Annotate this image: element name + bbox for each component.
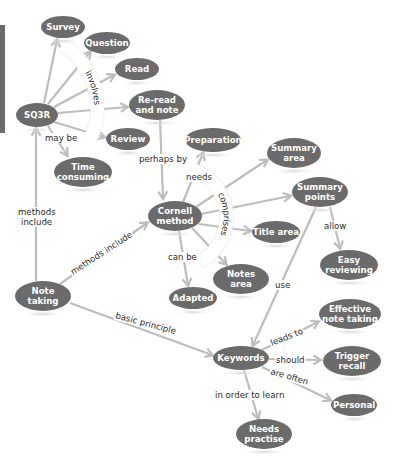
node-label: note taking	[322, 314, 378, 324]
node-summarypoints: Summarypoints	[292, 177, 348, 213]
edge-label-may-be: may be	[45, 133, 77, 143]
edge-cornell-to-summarypoints	[201, 196, 290, 214]
edge-label-methods-include-2: include	[21, 217, 52, 227]
node-label: Trigger	[335, 351, 370, 361]
node-label: practise	[244, 434, 283, 444]
node-titlearea: Title area	[252, 221, 300, 249]
node-preparation: Preparation	[184, 128, 241, 158]
edge-label-use: use	[275, 280, 290, 290]
node-label: points	[305, 192, 335, 202]
node-keywords: Keywords	[213, 346, 269, 376]
node-label: area	[230, 279, 252, 289]
node-label: Preparation	[184, 135, 241, 145]
node-label: and note	[135, 105, 178, 115]
node-sq3r: SQ3R	[16, 103, 58, 133]
edge-label-can-be: can be	[168, 252, 197, 262]
edge-label-should: should	[276, 355, 304, 365]
node-label: reviewing	[325, 265, 373, 275]
node-time: Timeconsuming	[54, 157, 112, 193]
node-practise: Needspractise	[236, 419, 292, 455]
edge-label-methods-include-diag: methods include	[69, 229, 134, 276]
node-label: Keywords	[217, 353, 264, 363]
node-label: Review	[111, 134, 146, 144]
node-label: Summary	[271, 143, 317, 153]
node-label: consuming	[57, 172, 110, 182]
concept-map: SurveyQuestionReadRe-readand noteSQ3RRev…	[0, 0, 396, 465]
node-reread: Re-readand note	[129, 90, 185, 126]
node-label: Summary	[297, 182, 343, 192]
node-label: Title area	[253, 227, 300, 237]
node-label: Re-read	[138, 95, 176, 105]
node-read: Read	[115, 58, 159, 86]
node-label: method	[156, 216, 193, 226]
node-label: Adapted	[173, 293, 214, 303]
node-label: Note	[31, 286, 54, 296]
node-label: SQ3R	[24, 110, 50, 120]
edge-label-perhaps-by: perhaps by	[139, 154, 187, 164]
node-label: Survey	[46, 22, 80, 32]
node-review: Review	[106, 128, 150, 156]
node-effective: Effectivenote taking	[319, 299, 381, 335]
node-label: Easy	[338, 255, 361, 265]
node-question: Question	[84, 32, 130, 60]
node-notetaking: Notetaking	[15, 281, 71, 317]
node-label: area	[283, 153, 305, 163]
edge-label-allow: allow	[324, 221, 346, 231]
node-label: Needs	[249, 424, 279, 434]
node-label: Cornell	[158, 206, 192, 216]
edge-label-are-often: are often	[269, 366, 309, 386]
node-personal: Personal	[331, 394, 377, 422]
node-label: Personal	[333, 400, 375, 410]
edge-label-methods-include-1: methods	[18, 207, 56, 217]
node-easy: Easyreviewing	[320, 250, 378, 286]
edge-label-leads-to: leads to	[269, 326, 304, 348]
node-label: Read	[125, 64, 149, 74]
node-label: Notes	[227, 269, 255, 279]
node-label: Effective	[329, 304, 371, 314]
node-label: Question	[85, 38, 128, 48]
edge-label-needs: needs	[186, 172, 212, 182]
node-adapted: Adapted	[169, 287, 217, 315]
node-survey: Survey	[41, 16, 85, 44]
edge-label-in-order-to-learn: in order to learn	[215, 390, 284, 400]
node-label: recall	[339, 361, 366, 371]
node-trigger: Triggerrecall	[323, 346, 381, 382]
node-label: taking	[28, 296, 59, 306]
node-label: Time	[71, 162, 95, 172]
node-summaryarea: Summaryarea	[267, 138, 321, 174]
node-notesarea: Notesarea	[213, 264, 269, 300]
